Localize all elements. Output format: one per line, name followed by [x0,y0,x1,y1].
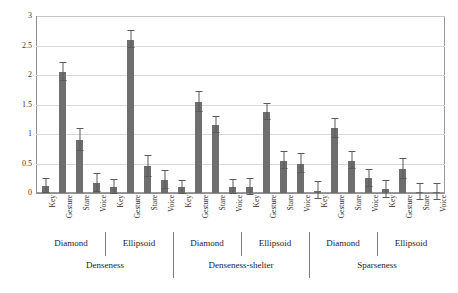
bar[interactable] [127,40,134,193]
bar[interactable] [93,183,100,193]
group-label: Denseness-shelter [173,258,309,272]
bar[interactable] [76,140,83,193]
error-bar-cap-top [59,62,66,63]
error-bar-cap-top [263,103,270,104]
bar-slot[interactable] [275,16,292,193]
bar-slot[interactable] [71,16,88,193]
bar-slot[interactable] [105,16,122,193]
bar-slot[interactable] [241,16,258,193]
x-axis-tick-label: Key [117,195,125,208]
bar-slot[interactable] [411,16,428,193]
error-bar-cap-top [331,118,338,119]
error-bar [130,31,131,48]
error-bar [113,180,114,194]
y-axis-tick-label: 1.5 [2,105,32,113]
error-bar-cap-top [280,151,287,152]
bar[interactable] [42,186,49,193]
bar[interactable] [229,187,236,193]
subgroup-label: Diamond [173,236,241,250]
bar[interactable] [212,125,219,193]
x-axis-tick-label: Gesture [338,195,346,218]
y-axis-tick-label: 3 [2,16,32,24]
subgroup-label: Diamond [309,236,377,250]
x-axis-tick-label: Stare [83,195,91,210]
error-bar [351,152,352,170]
error-bar-cap-top [229,179,236,180]
bar-slot[interactable] [37,16,54,193]
subgroup-label: Ellipsoid [377,236,445,250]
bar-slot[interactable] [190,16,207,193]
group-separator [377,232,378,256]
error-bar [45,179,46,193]
x-axis-tick-labels: KeyGestureStareVoiceKeyGestureStareVoice… [37,195,445,233]
x-axis-tick-label: Voice [440,195,448,212]
group-separator [309,232,310,278]
error-bar [62,63,63,81]
error-bar [96,174,97,192]
error-bar-cap-bottom [399,178,406,179]
error-bar-cap-top [144,155,151,156]
error-bar-cap-top [348,151,355,152]
group-labels: DensenessDenseness-shelterSparseness [37,258,445,276]
error-bar [368,170,369,187]
bar[interactable] [297,164,304,194]
bar-slot[interactable] [258,16,275,193]
bar[interactable] [263,112,270,193]
bar-slot[interactable] [394,16,411,193]
bar[interactable] [178,187,185,193]
bar-slot[interactable] [428,16,445,193]
bar[interactable] [246,187,253,193]
error-bar-cap-bottom [42,192,49,193]
error-bar-cap-bottom [297,172,304,173]
group-separator [105,232,106,256]
error-bar [402,159,403,179]
bar[interactable] [280,161,287,193]
bar-slot[interactable] [207,16,224,193]
bar[interactable] [433,192,440,193]
x-axis-tick-label: Key [253,195,261,208]
bar[interactable] [331,128,338,193]
error-bar-cap-top [110,179,117,180]
x-axis-tick-label: Stare [219,195,227,210]
bar[interactable] [382,189,389,193]
x-axis-tick-label: Voice [100,195,108,212]
x-axis-tick-label: Key [49,195,57,208]
bar[interactable] [399,169,406,193]
bar-slot[interactable] [54,16,71,193]
subgroup-label: Ellipsoid [105,236,173,250]
bar[interactable] [348,161,355,193]
error-bar-cap-bottom [76,150,83,151]
bar-slot[interactable] [309,16,326,193]
bar-slot[interactable] [139,16,156,193]
error-bar [300,154,301,173]
error-bar-cap-bottom [365,186,372,187]
bar[interactable] [365,178,372,193]
bar[interactable] [161,180,168,193]
bar-slot[interactable] [343,16,360,193]
group-label: Denseness [37,258,173,272]
x-axis-tick-label: Key [321,195,329,208]
bar-slot[interactable] [88,16,105,193]
bar[interactable] [110,187,117,193]
bar-slot[interactable] [377,16,394,193]
bar-slot[interactable] [173,16,190,193]
error-bar-cap-top [416,183,423,184]
bar-slot[interactable] [122,16,139,193]
error-bar-cap-top [382,180,389,181]
error-bar-cap-bottom [59,80,66,81]
bar-slot[interactable] [360,16,377,193]
error-bar [198,92,199,112]
error-bar-cap-top [365,169,372,170]
x-axis-tick-label: Gesture [202,195,210,218]
bar-slot[interactable] [326,16,343,193]
bar[interactable] [314,191,321,193]
bar[interactable] [416,192,423,193]
bar-slot[interactable] [292,16,309,193]
error-bar [283,152,284,169]
y-axis-tick-label: 2.5 [2,46,32,54]
bar[interactable] [59,72,66,193]
bar-slot[interactable] [156,16,173,193]
bar[interactable] [195,102,202,193]
bar-slot[interactable] [224,16,241,193]
bar[interactable] [144,166,151,193]
